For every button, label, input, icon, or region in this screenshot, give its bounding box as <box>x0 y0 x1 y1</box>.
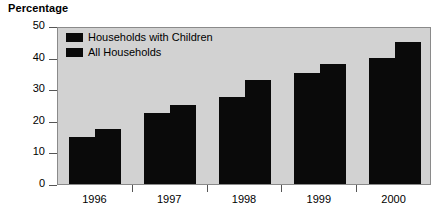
y-axis-tick-label: 40 <box>33 51 45 63</box>
bar <box>294 73 320 184</box>
x-axis-tick-label: 1999 <box>307 193 331 205</box>
y-axis-tick-label: 20 <box>33 114 45 126</box>
legend-swatch-icon <box>66 48 83 57</box>
x-axis-tick-mark <box>132 185 133 192</box>
x-axis-tick-mark <box>281 185 282 192</box>
page-title: Percentage <box>8 2 68 14</box>
legend-label: All Households <box>88 47 161 58</box>
bar <box>170 105 196 184</box>
bar <box>95 129 121 184</box>
y-axis-tick-mark <box>49 90 57 91</box>
bar <box>395 42 421 184</box>
y-axis-tick-label: 50 <box>33 19 45 31</box>
x-axis-tick-label: 2000 <box>381 193 405 205</box>
bar <box>144 113 170 184</box>
legend-label: Households with Children <box>88 32 213 43</box>
y-axis-tick-mark <box>49 153 57 154</box>
y-axis-tick-label: 0 <box>39 177 45 189</box>
y-axis-tick-label: 30 <box>33 82 45 94</box>
x-axis-tick-label: 1996 <box>82 193 106 205</box>
x-axis-tick-label: 1998 <box>232 193 256 205</box>
x-axis-tick-label: 1997 <box>157 193 181 205</box>
legend-swatch-icon <box>66 33 83 42</box>
y-axis-tick-label: 10 <box>33 145 45 157</box>
x-axis: 19961997199819992000 <box>57 185 431 215</box>
y-axis-tick-mark <box>49 122 57 123</box>
clipped-caption <box>0 213 439 222</box>
chart-legend: Households with ChildrenAll Households <box>66 31 213 59</box>
x-axis-tick-mark <box>356 185 357 192</box>
y-axis-tick-mark <box>49 185 57 186</box>
x-axis-tick-mark <box>207 185 208 192</box>
bar <box>69 137 95 184</box>
bar <box>320 64 346 184</box>
y-axis: 01020304050 <box>0 27 57 186</box>
bar <box>219 97 245 184</box>
y-axis-tick-mark <box>49 27 57 28</box>
plot-area: Households with ChildrenAll Households <box>57 27 431 185</box>
legend-item: Households with Children <box>66 31 213 44</box>
bar-chart-figure: Percentage 01020304050 Households with C… <box>0 0 439 222</box>
bar <box>369 58 395 184</box>
legend-item: All Households <box>66 46 213 59</box>
y-axis-tick-mark <box>49 59 57 60</box>
bar <box>245 80 271 184</box>
